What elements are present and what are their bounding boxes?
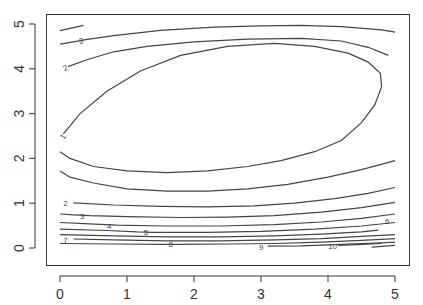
contour-label: 3 [80, 212, 85, 221]
y-tick-label: 0 [11, 244, 27, 252]
contour-label: 6 [385, 217, 390, 226]
y-tick-label: 2 [11, 154, 27, 162]
y-tick-label: 5 [11, 20, 27, 28]
y-tick-label: 3 [11, 109, 27, 117]
contour-line-level-3 [60, 25, 84, 30]
contour-lines [60, 25, 395, 247]
contour-label: 10 [328, 242, 337, 251]
plot-frame [47, 15, 410, 266]
contour-line-level-10 [372, 245, 395, 247]
contour-line-level-2 [73, 188, 395, 207]
contour-label: 4 [107, 222, 112, 231]
contour-label: 8 [169, 240, 174, 249]
contour-label: 3 [78, 36, 84, 46]
x-tick-label: 3 [257, 286, 265, 302]
contour-label: 2 [63, 199, 68, 208]
y-tick-label: 4 [11, 65, 27, 73]
y-axis: 012345 [11, 20, 35, 252]
contour-line-level-2 [68, 38, 388, 66]
contour-label: 7 [63, 236, 68, 245]
x-tick-label: 1 [123, 286, 131, 302]
contour-label: 5 [144, 228, 149, 237]
y-tick-label: 1 [11, 199, 27, 207]
x-tick-label: 0 [56, 286, 64, 302]
contour-line-level-1 [60, 161, 395, 192]
x-tick-label: 5 [391, 286, 399, 302]
x-tick-label: 4 [324, 286, 332, 302]
contour-line-level-1 [60, 43, 382, 172]
contour-chart: 1223345678910 012345 012345 [0, 0, 423, 305]
x-axis: 012345 [56, 276, 399, 302]
contour-label: 9 [259, 243, 264, 252]
x-tick-label: 2 [190, 286, 198, 302]
contour-label: 2 [62, 63, 70, 73]
